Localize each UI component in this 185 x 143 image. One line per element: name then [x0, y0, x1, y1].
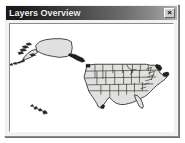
- window-titlebar[interactable]: Layers Overview ×: [6, 6, 177, 20]
- map-region-continental-us: [84, 64, 169, 108]
- map-region-hawaii: [31, 104, 48, 114]
- map-panel[interactable]: [9, 23, 174, 132]
- map-region-alaska: [10, 39, 85, 66]
- window-client-area: [6, 20, 177, 135]
- close-button[interactable]: ×: [164, 8, 175, 18]
- window-title: Layers Overview: [6, 6, 81, 20]
- desktop-backdrop: Layers Overview ×: [0, 0, 185, 143]
- us-overview-map: [10, 24, 173, 131]
- close-icon: ×: [165, 9, 174, 17]
- layers-overview-window: Layers Overview ×: [4, 4, 179, 137]
